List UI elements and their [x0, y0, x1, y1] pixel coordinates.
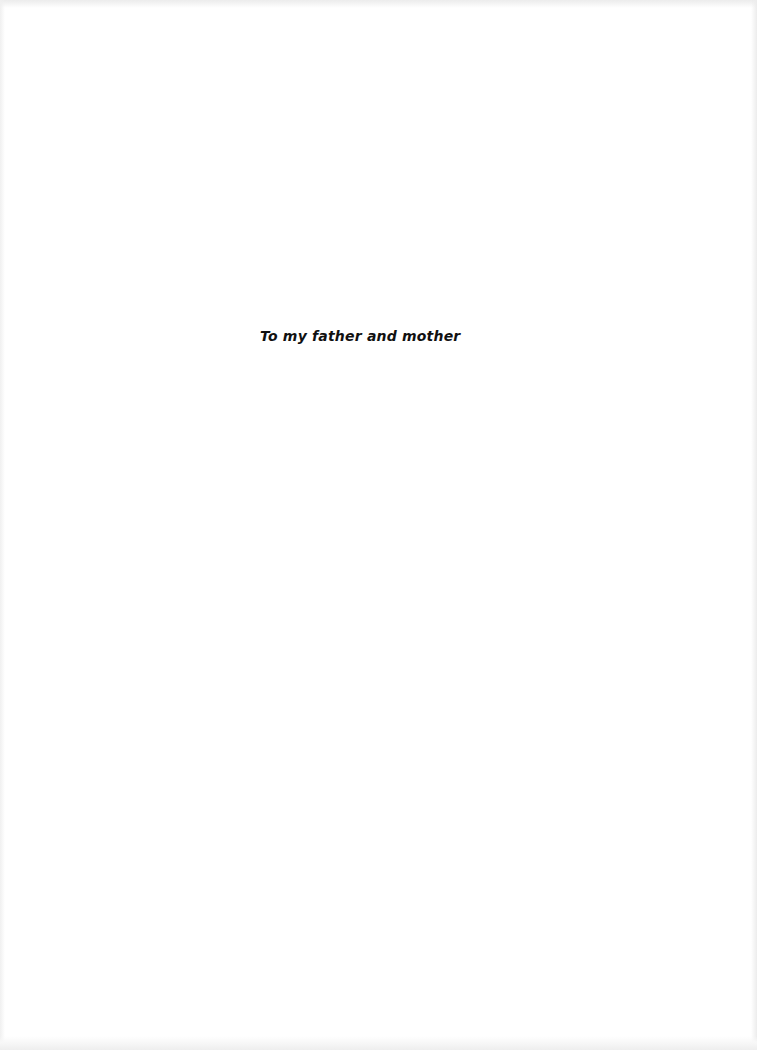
dedication-text: To my father and mother: [260, 326, 460, 346]
page-edge-bottom-shading: [0, 1036, 757, 1050]
page-edge-right-shading: [751, 0, 757, 1050]
dedication-page: To my father and mother: [0, 0, 757, 1050]
page-edge-left-shading: [0, 0, 5, 1050]
page-edge-top-shading: [0, 0, 757, 8]
